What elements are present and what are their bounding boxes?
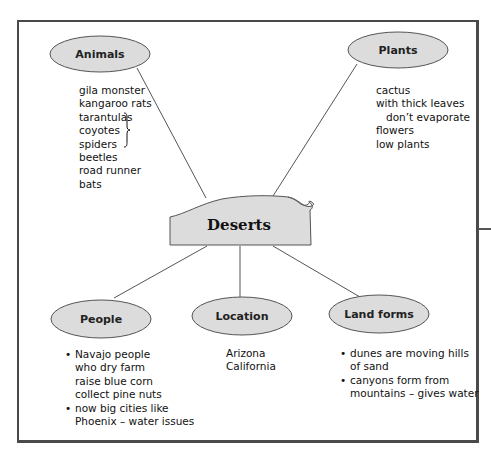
land-forms-item: of sand [340, 360, 478, 373]
animals-list: gila monster kangaroo rats tarantulas co… [79, 84, 152, 191]
people-item-text: now big cities like [75, 402, 169, 414]
people-item-text: Navajo people [75, 348, 150, 360]
animals-brace [122, 112, 132, 148]
plants-item: don’t evaporate [376, 111, 470, 124]
people-item: Phoenix – water issues [65, 415, 194, 428]
location-item: California [226, 360, 276, 373]
people-item: who dry farm [65, 361, 194, 374]
animals-item: gila monster [79, 84, 152, 97]
bullet-icon: • [65, 348, 75, 361]
people-item-text: Phoenix – water issues [75, 415, 194, 427]
people-item: •now big cities like [65, 402, 194, 415]
plants-item: flowers [376, 124, 470, 137]
people-node-label: People [80, 313, 122, 326]
land-forms-list: •dunes are moving hills of sand •canyons… [340, 347, 478, 401]
land-forms-item-text: mountains – gives water [350, 387, 478, 399]
plants-item: with thick leaves [376, 97, 470, 110]
people-list: •Navajo people who dry farm raise blue c… [65, 348, 194, 428]
animals-item: kangaroo rats [79, 97, 152, 110]
people-item-text: raise blue corn [75, 375, 153, 387]
bullet-icon: • [340, 374, 350, 387]
plants-node-label: Plants [379, 44, 418, 57]
land-forms-item-text: of sand [350, 360, 389, 372]
connector-people [114, 246, 207, 298]
land-forms-item: •dunes are moving hills [340, 347, 478, 360]
land-forms-item: mountains – gives water [340, 387, 478, 400]
connector-land-forms [273, 246, 360, 297]
people-item: collect pine nuts [65, 388, 194, 401]
people-item: •Navajo people [65, 348, 194, 361]
plants-list: cactus with thick leaves don’t evaporate… [376, 84, 470, 151]
animals-item: tarantulas [79, 111, 152, 124]
bullet-icon: • [65, 402, 75, 415]
animals-item: bats [79, 178, 152, 191]
location-list: Arizona California [226, 347, 276, 374]
deserts-node-label: Deserts [207, 216, 271, 234]
land-forms-item-text: dunes are moving hills [350, 347, 469, 359]
animals-item: road runner [79, 164, 152, 177]
land-forms-item: •canyons form from [340, 374, 478, 387]
land-forms-node-label: Land forms [344, 308, 414, 321]
location-item: Arizona [226, 347, 276, 360]
people-item-text: who dry farm [75, 361, 145, 373]
location-node-label: Location [216, 310, 269, 323]
people-item-text: collect pine nuts [75, 388, 162, 400]
bullet-icon: • [340, 347, 350, 360]
animals-item: beetles [79, 151, 152, 164]
animals-node-label: Animals [75, 48, 124, 61]
plants-item-text: don’t evaporate [386, 111, 470, 123]
plants-item: cactus [376, 84, 470, 97]
animals-item: coyotes [79, 124, 152, 137]
connector-plants [273, 64, 357, 196]
people-item: raise blue corn [65, 375, 194, 388]
plants-item: low plants [376, 138, 470, 151]
land-forms-item-text: canyons form from [350, 374, 449, 386]
animals-item: spiders [79, 138, 152, 151]
